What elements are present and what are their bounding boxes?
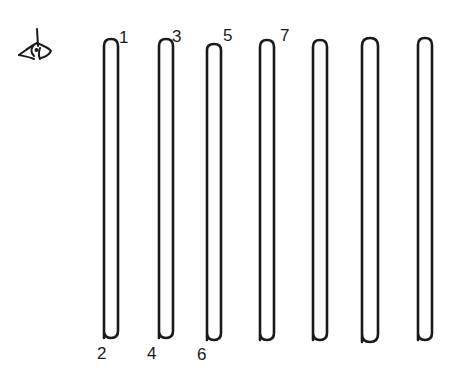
eye-viewing-icon — [19, 29, 51, 59]
tube-5 — [313, 40, 327, 340]
tube-6 — [362, 38, 378, 342]
label-5: 5 — [223, 26, 232, 45]
label-7: 7 — [280, 26, 289, 45]
tube-7 — [418, 38, 432, 340]
label-6: 6 — [197, 345, 206, 364]
tube-1 — [104, 39, 118, 338]
label-4: 4 — [147, 344, 156, 363]
label-2: 2 — [97, 344, 106, 363]
label-3: 3 — [172, 27, 181, 46]
tube-3 — [207, 44, 221, 340]
label-1: 1 — [119, 28, 128, 47]
tube-diagram: 1 2 3 4 5 6 7 — [0, 0, 465, 376]
tube-4 — [260, 40, 274, 340]
tube-2 — [159, 39, 173, 338]
